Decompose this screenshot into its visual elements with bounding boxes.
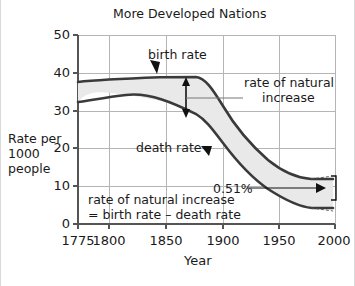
- ytick-label-30: 30: [44, 103, 70, 118]
- xtick-label-1900: 1900: [202, 233, 244, 248]
- y-axis-ticks: [73, 35, 78, 224]
- xtick-label-1800: 1800: [88, 233, 130, 248]
- natural-increase-annotation-line1: rate of natural: [244, 75, 334, 90]
- xtick-label-1950: 1950: [258, 233, 300, 248]
- formula-note-line2: = birth rate – death rate: [88, 207, 241, 222]
- xtick-label-1850: 1850: [145, 233, 187, 248]
- xtick-label-2000: 2000: [313, 233, 355, 248]
- y-axis-label-line2: 1000: [8, 146, 40, 161]
- natural-increase-annotation-line2: increase: [262, 90, 315, 105]
- x-axis-ticks: [78, 224, 335, 229]
- ytick-label-0: 0: [44, 216, 70, 231]
- ytick-label-40: 40: [44, 65, 70, 80]
- death-rate-pointer-arrow: [201, 146, 212, 156]
- chart-title: More Developed Nations: [113, 6, 267, 21]
- y-axis-label-line1: Rate per: [8, 131, 61, 146]
- x-axis-label: Year: [184, 253, 212, 268]
- ytick-label-50: 50: [44, 27, 70, 42]
- ytick-label-10: 10: [44, 178, 70, 193]
- birth-rate-pointer-arrow: [150, 60, 160, 74]
- y-axis-label-line3: people: [8, 161, 50, 176]
- birth-rate-annotation: birth rate: [148, 47, 207, 62]
- chart-figure: More Developed Nations 50 40 30 20 10 0 …: [0, 0, 355, 286]
- death-rate-annotation: death rate: [136, 140, 201, 155]
- formula-note-line1: rate of natural increase: [88, 192, 235, 207]
